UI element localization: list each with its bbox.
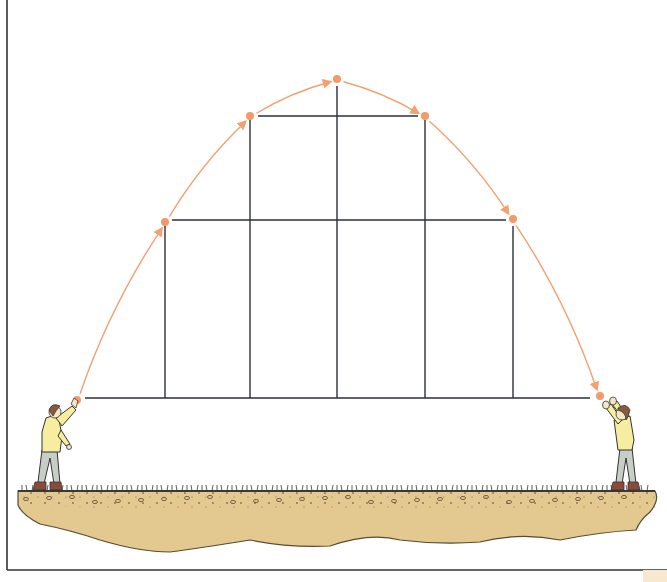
trajectory-arc [80,82,597,394]
thrower-figure [33,398,78,490]
trajectory-segment [256,82,330,114]
trajectory-point [509,215,517,223]
trajectory-segment [430,121,509,213]
trajectory-segment [516,225,597,389]
reference-grid [85,86,590,398]
trajectory-point [246,112,254,120]
catcher-figure [603,397,641,490]
trajectory-point [421,112,429,120]
projectile-diagram [0,0,667,582]
corner-swatch [643,570,667,582]
trajectory-point [333,75,341,83]
trajectory-point [596,392,604,400]
trajectory-point [161,218,169,226]
trajectory-segment [343,82,418,114]
trajectory-segment [169,121,245,216]
trajectory-segment [80,228,162,393]
trajectory-points [73,75,604,404]
ground [18,485,657,552]
